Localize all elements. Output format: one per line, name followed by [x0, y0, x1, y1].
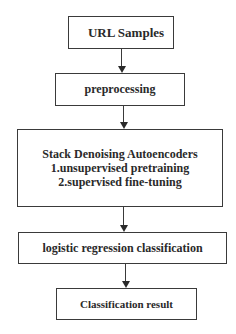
logistic-label: logistic regression classification: [42, 241, 202, 255]
logistic-box: logistic regression classification: [18, 232, 227, 264]
url-samples-label: URL Samples: [78, 25, 164, 40]
sda-title: Stack Denoising Autoencoders: [42, 147, 197, 161]
arrow-line-2: [123, 106, 124, 122]
result-box: Classification result: [56, 288, 197, 320]
arrow-line-1: [121, 49, 122, 66]
arrow-head-2: [120, 122, 128, 129]
arrow-line-4: [125, 264, 126, 281]
sda-step-2: 2.supervised fine-tuning: [58, 175, 181, 189]
preprocessing-label: preprocessing: [85, 82, 156, 96]
arrow-head-1: [118, 66, 126, 73]
arrow-head-3: [120, 225, 128, 232]
sda-step-1: 1.unsupervised pretraining: [51, 161, 189, 175]
url-samples-box: URL Samples: [68, 16, 174, 49]
arrow-head-4: [122, 281, 130, 288]
sda-box: Stack Denoising Autoencoders 1.unsupervi…: [17, 129, 223, 207]
result-label: Classification result: [80, 298, 173, 311]
preprocessing-box: preprocessing: [55, 73, 185, 106]
arrow-line-3: [123, 207, 124, 225]
